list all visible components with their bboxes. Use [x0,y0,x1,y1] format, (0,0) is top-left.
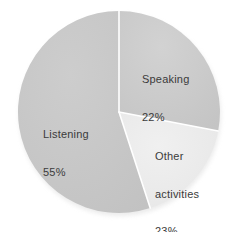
pie-chart-figure: Speaking 22% Listening 55% Other activit… [0,0,234,232]
pie-slice-speaking[interactable] [119,11,220,131]
pie-chart-canvas [0,0,234,232]
